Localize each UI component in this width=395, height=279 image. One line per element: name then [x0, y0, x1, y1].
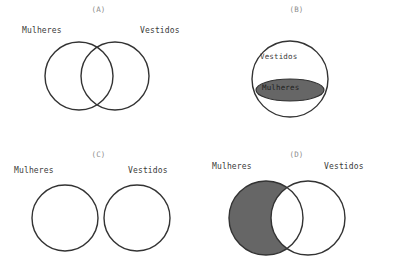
panel-a-venn-graphic [0, 0, 197, 139]
panel-c: (C) Mulheres Vestidos [0, 140, 197, 279]
panel-b-outer-set-label: Vestidos [260, 52, 297, 61]
panel-b: (B) Vestidos Mulheres [198, 0, 395, 139]
panel-d-venn-graphic [198, 140, 395, 279]
panel-b-venn-graphic [198, 0, 395, 139]
panel-a-right-circle [81, 42, 149, 110]
panel-c-venn-graphic [0, 140, 197, 279]
panel-a: (A) Mulheres Vestidos [0, 0, 197, 139]
panel-a-left-circle [45, 42, 113, 110]
panel-c-left-circle [32, 185, 98, 251]
panel-d-shaded-region [198, 140, 395, 279]
panel-c-right-circle [104, 185, 170, 251]
panel-d: (D) Mulheres Vestidos [198, 140, 395, 279]
panel-b-inner-set-label: Mulheres [262, 83, 299, 92]
venn-diagram-figure: (A) Mulheres Vestidos (B) Vestidos Mulhe… [0, 0, 395, 279]
